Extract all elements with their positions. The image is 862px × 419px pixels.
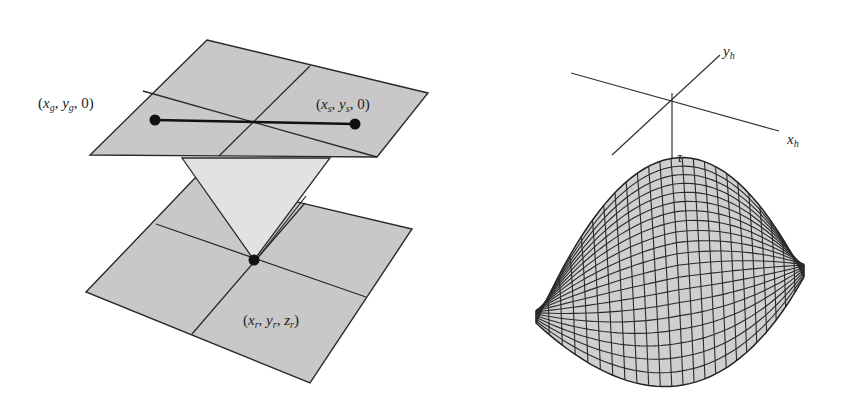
source-label: (xs, ys, 0) — [316, 97, 370, 114]
y-axis — [612, 55, 720, 155]
x-axis-label: xh — [787, 132, 799, 149]
y-axis-label: yh — [723, 44, 735, 61]
geophone-point — [150, 115, 161, 126]
surface-plane — [90, 40, 428, 157]
geophone-label: (xg, yg, 0) — [38, 96, 94, 113]
tau-label: τ — [677, 150, 682, 165]
receiver-label: (xr, yr, zr) — [243, 313, 299, 330]
right-diagram — [536, 55, 804, 387]
figure-canvas — [0, 0, 862, 419]
source-point — [350, 119, 361, 130]
left-diagram — [86, 40, 428, 383]
x-axis — [571, 73, 779, 131]
traveltime-surface — [536, 158, 804, 387]
receiver-point — [249, 255, 260, 266]
